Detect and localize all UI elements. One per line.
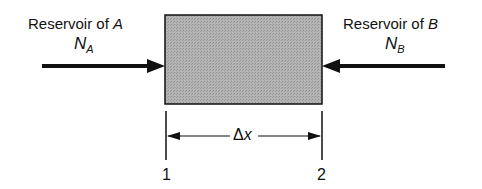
- species-a: A: [113, 15, 123, 32]
- x-symbol: x: [244, 126, 252, 143]
- position-1-label: 1: [162, 166, 171, 184]
- delta-symbol: Δ: [233, 126, 244, 143]
- reservoir-b-text: Reservoir of: [343, 15, 424, 32]
- diffusion-film-box: [165, 15, 322, 104]
- flux-label-a: NA: [74, 34, 94, 55]
- reservoir-b-label: Reservoir of B: [343, 15, 438, 32]
- species-b: B: [428, 15, 438, 32]
- flux-arrow-b: [322, 59, 445, 73]
- flux-symbol-a: N: [74, 34, 86, 53]
- reservoir-a-text: Reservoir of: [28, 15, 109, 32]
- flux-label-b: NB: [385, 34, 405, 55]
- flux-arrow-a: [42, 59, 165, 73]
- position-2-label: 2: [317, 166, 326, 184]
- flux-subscript-a: A: [86, 43, 93, 55]
- flux-symbol-b: N: [385, 34, 397, 53]
- reservoir-a-label: Reservoir of A: [28, 15, 123, 32]
- flux-subscript-b: B: [397, 43, 404, 55]
- delta-x-label: Δx: [231, 126, 254, 144]
